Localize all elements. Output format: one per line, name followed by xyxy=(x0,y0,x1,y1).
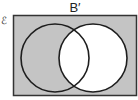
venn-diagram xyxy=(0,0,138,100)
